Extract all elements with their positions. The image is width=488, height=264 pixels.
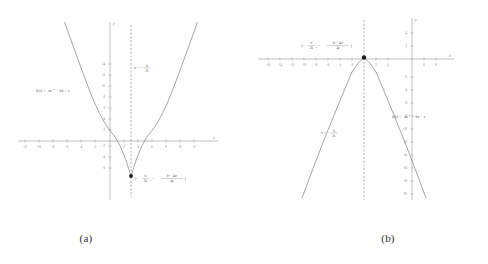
vertex-marker-a xyxy=(129,174,133,178)
vertex-x-denominator: 2a xyxy=(144,179,148,183)
vertex-close-paren: ) xyxy=(185,176,187,181)
svg-text:f(x) = ax: f(x) = ax 2 + bx + c xyxy=(36,86,70,93)
x-tick-label: 4 xyxy=(137,145,139,149)
function-label-lhs: f(x) = xyxy=(392,114,402,119)
function-label-tail: + bx + c xyxy=(56,88,70,93)
function-label-exponent: 2 xyxy=(409,114,411,117)
function-label-b: f(x) = ax 2 + bx + c xyxy=(392,112,426,119)
svg-text:f(x) = ax: f(x) = ax 2 + bx + c xyxy=(392,112,426,119)
x-tick-label: -4 xyxy=(339,63,342,67)
x-tick-label: -12 xyxy=(23,145,28,149)
vertex-open-paren: (− xyxy=(135,176,139,181)
axis-symmetry-label-b: x = − b 2a xyxy=(321,129,337,138)
panel-caption-a: (a) xyxy=(0,232,208,244)
vertex-y-numerator: b² − 4ac xyxy=(333,41,344,45)
y-tick-label: 8 xyxy=(103,95,105,99)
function-label-lhs: f(x) = xyxy=(36,88,46,93)
x-tick-label: -12 xyxy=(290,63,295,67)
x-tick-label: -8 xyxy=(315,63,318,67)
y-tick-label: 12 xyxy=(102,73,106,77)
vertex-open-paren: (− xyxy=(301,43,305,48)
y-tick-label: 4 xyxy=(405,31,407,35)
function-label-exponent: 2 xyxy=(53,88,55,91)
x-tick-label: 12 xyxy=(192,145,196,149)
x-tick-label: -2 xyxy=(94,145,97,149)
parabola-chart-a: -12 -10 -8 -6 -4 -2 2 4 6 8 10 12 xyxy=(0,0,244,230)
vertex-y-denominator: 4a xyxy=(170,179,174,183)
axis-symmetry-denominator: 2a xyxy=(332,134,336,138)
y-tick-label: -10 xyxy=(403,127,408,131)
axis-symmetry-label-a: x = − b 2a xyxy=(134,64,150,73)
x-tick-label: 8 xyxy=(435,63,437,67)
axis-symmetry-lhs: x = − xyxy=(134,65,143,70)
figure-panel-a: -12 -10 -8 -6 -4 -2 2 4 6 8 10 12 xyxy=(0,0,244,264)
x-tick-labels-b: -16 -14 -12 -10 -8 -6 -4 -2 2 4 6 8 xyxy=(266,63,437,67)
function-label-rhs: ax xyxy=(404,114,408,119)
figure-container: -12 -10 -8 -6 -4 -2 2 4 6 8 10 12 xyxy=(0,0,488,264)
x-tick-label: -10 xyxy=(302,63,307,67)
x-tick-label: 2 xyxy=(375,63,377,67)
y-tick-label: -2 xyxy=(404,75,407,79)
y-tick-labels-a: -6 -4 -2 2 4 6 8 10 12 14 xyxy=(102,62,106,170)
x-tick-label: 6 xyxy=(423,63,425,67)
x-tick-label: -6 xyxy=(327,63,330,67)
x-tick-label: -2 xyxy=(351,63,354,67)
y-tick-label: 6 xyxy=(103,106,105,110)
x-tick-label: 4 xyxy=(387,63,389,67)
vertex-x-numerator: b xyxy=(145,174,147,178)
function-label-a: f(x) = ax 2 + bx + c xyxy=(36,86,70,93)
axis-symmetry-numerator: b xyxy=(146,64,148,68)
vertex-comma: , − xyxy=(150,176,155,182)
y-tick-label: -18 xyxy=(403,179,408,183)
y-tick-label: -4 xyxy=(404,88,407,92)
x-tick-labels-a: -12 -10 -8 -6 -4 -2 2 4 6 8 10 12 xyxy=(23,145,196,149)
x-tick-label: -10 xyxy=(37,145,42,149)
vertex-label-a: (− b 2a , − b² − 4ac 4a ) xyxy=(135,174,187,183)
y-tick-label: 10 xyxy=(102,84,106,88)
y-tick-label: 4 xyxy=(103,117,105,121)
vertex-y-numerator: b² − 4ac xyxy=(167,174,178,178)
vertex-comma: , − xyxy=(316,43,321,49)
y-axis-name-a: y xyxy=(112,22,115,26)
y-tick-label: 14 xyxy=(102,62,106,66)
vertex-x-numerator: b xyxy=(311,41,313,45)
x-tick-label: -16 xyxy=(266,63,271,67)
figure-panel-b: -16 -14 -12 -10 -8 -6 -4 -2 2 4 6 8 xyxy=(244,0,488,264)
y-tick-label: -6 xyxy=(102,166,105,170)
y-tick-label: -20 xyxy=(403,192,408,196)
x-tick-label: 2 xyxy=(123,145,125,149)
axis-symmetry-numerator: b xyxy=(333,129,335,133)
y-tick-label: 2 xyxy=(405,44,407,48)
vertex-x-denominator: 2a xyxy=(310,46,314,50)
y-axis-name-b: y xyxy=(414,18,417,22)
function-label-tail: + bx + c xyxy=(412,114,426,119)
x-tick-label: -6 xyxy=(66,145,69,149)
x-tick-label: 10 xyxy=(178,145,182,149)
vertex-close-paren: ) xyxy=(351,43,353,48)
x-axis-name-a: x xyxy=(212,136,215,140)
x-tick-label: -14 xyxy=(278,63,283,67)
x-tick-label: 6 xyxy=(151,145,153,149)
panel-caption-b: (b) xyxy=(266,232,488,244)
function-label-rhs: ax xyxy=(48,88,52,93)
y-tick-label: -2 xyxy=(102,144,105,148)
x-tick-label: -4 xyxy=(80,145,83,149)
vertex-label-b: (− b 2a , − b² − 4ac 4a ) xyxy=(301,41,353,50)
y-tick-label: 2 xyxy=(103,128,105,132)
axis-symmetry-lhs: x = − xyxy=(321,130,330,135)
y-tick-label: -14 xyxy=(403,153,408,157)
y-tick-label: -16 xyxy=(403,166,408,170)
axis-symmetry-denominator: 2a xyxy=(145,69,149,73)
parabola-chart-b: -16 -14 -12 -10 -8 -6 -4 -2 2 4 6 8 xyxy=(244,0,488,230)
x-tick-label: -8 xyxy=(52,145,55,149)
y-tick-label: -4 xyxy=(102,155,105,159)
x-axis-name-b: x xyxy=(448,54,451,58)
y-tick-label: -6 xyxy=(404,101,407,105)
vertex-y-denominator: 4a xyxy=(336,46,340,50)
x-tick-label: 8 xyxy=(165,145,167,149)
vertex-marker-b xyxy=(362,55,366,59)
